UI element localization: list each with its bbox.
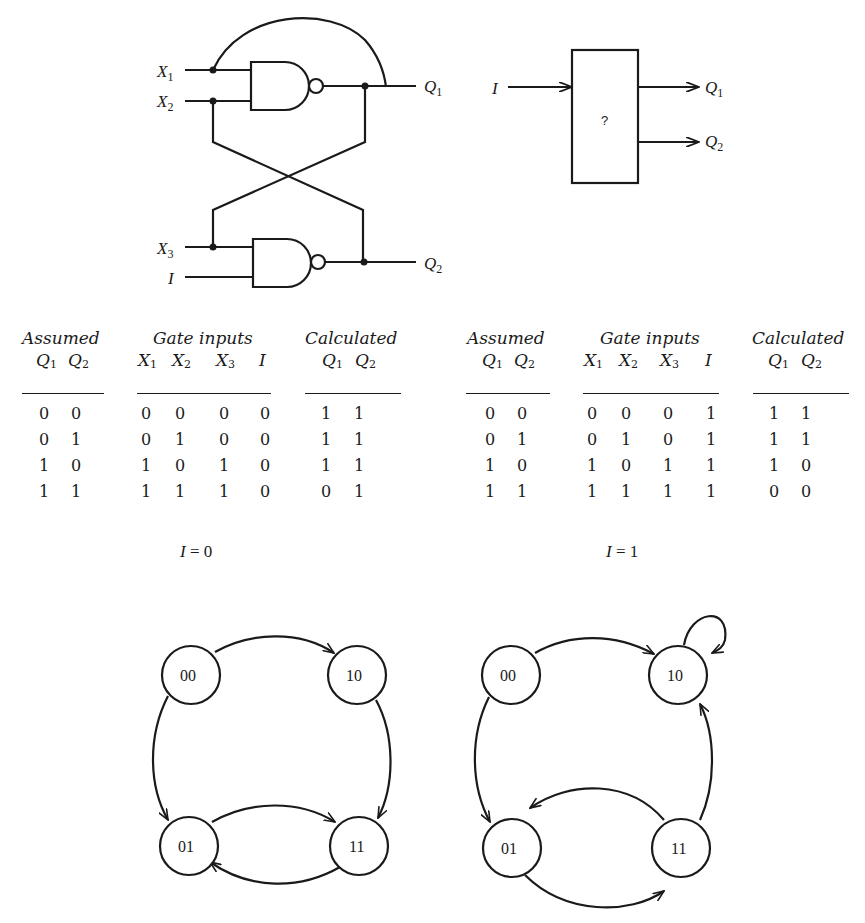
label-x3: X3	[156, 239, 173, 261]
cell-calculated: 1	[351, 404, 367, 423]
cell-calculated: 1	[318, 404, 334, 423]
cell-inputs: 0	[257, 456, 273, 475]
header-rule	[466, 393, 550, 394]
state-label-10: 10	[346, 667, 362, 684]
state-label-00: 00	[500, 667, 516, 684]
subheader-q1: Q1	[36, 350, 57, 371]
transition-01-to-11	[525, 875, 664, 907]
cell-assumed: 0	[68, 456, 84, 475]
cell-inputs: 0	[216, 404, 232, 423]
cell-calculated: 1	[351, 430, 367, 449]
cell-calculated: 1	[766, 430, 782, 449]
header-rule	[22, 393, 104, 394]
header-calculated: Calculated	[305, 328, 397, 348]
cell-assumed: 0	[482, 430, 498, 449]
cell-inputs: 1	[618, 482, 634, 501]
cell-inputs: 0	[618, 404, 634, 423]
cell-calculated: 1	[318, 456, 334, 475]
cell-inputs: 0	[618, 456, 634, 475]
cell-inputs: 0	[257, 404, 273, 423]
cell-calculated: 0	[798, 456, 814, 475]
header-gate-inputs: Gate inputs	[153, 328, 253, 348]
cell-calculated: 0	[798, 482, 814, 501]
cell-inputs: 1	[703, 430, 719, 449]
state-label-01: 01	[178, 838, 194, 855]
transition-00-to-10	[215, 636, 334, 653]
subheader-i: I	[259, 350, 266, 370]
transition-00-to-10	[535, 638, 654, 654]
cell-assumed: 1	[36, 482, 52, 501]
cell-assumed: 0	[482, 404, 498, 423]
subheader-calc-q1: Q1	[768, 350, 789, 371]
cell-calculated: 1	[318, 430, 334, 449]
cell-inputs: 1	[703, 456, 719, 475]
cell-inputs: 1	[216, 482, 232, 501]
cell-assumed: 1	[482, 456, 498, 475]
subheader-i: I	[705, 350, 712, 370]
cell-inputs: 0	[584, 430, 600, 449]
cell-calculated: 1	[798, 404, 814, 423]
cell-assumed: 1	[68, 430, 84, 449]
state-label-10: 10	[667, 667, 683, 684]
cell-assumed: 0	[36, 430, 52, 449]
subheader-x3: X3	[660, 350, 679, 371]
junction-dot	[361, 259, 368, 266]
transition-01-to-11	[212, 806, 335, 823]
cell-calculated: 1	[351, 456, 367, 475]
transition-10-self-loop	[684, 616, 725, 653]
cell-inputs: 1	[216, 456, 232, 475]
transition-11-to-10	[700, 704, 712, 820]
cell-calculated: 1	[766, 456, 782, 475]
label-q2: Q2	[424, 254, 442, 276]
header-rule	[583, 393, 719, 394]
header-assumed: Assumed	[467, 328, 545, 348]
cell-assumed: 0	[514, 456, 530, 475]
subheader-x2: X2	[172, 350, 191, 371]
black-box-q2-label: Q2	[705, 132, 723, 154]
transition-11-to-01	[530, 788, 664, 820]
black-box: ? I Q1 Q2	[491, 50, 723, 183]
transition-00-to-01	[153, 696, 168, 820]
cell-inputs: 0	[172, 456, 188, 475]
state-label-00: 00	[180, 667, 196, 684]
header-calculated: Calculated	[752, 328, 844, 348]
junction-dot	[210, 244, 217, 251]
transition-00-to-01	[475, 697, 490, 822]
nand-bubble-1	[309, 79, 323, 93]
cell-calculated: 1	[766, 404, 782, 423]
label-x2: X2	[156, 92, 173, 114]
cell-calculated: 0	[318, 482, 334, 501]
cell-inputs: 1	[138, 456, 154, 475]
nand-latch-circuit: X1 X2 X3 I Q1 Q2	[156, 18, 442, 288]
cell-inputs: 1	[584, 482, 600, 501]
cell-inputs: 1	[172, 430, 188, 449]
cell-inputs: 0	[172, 404, 188, 423]
cell-assumed: 0	[36, 404, 52, 423]
cell-inputs: 1	[138, 482, 154, 501]
cell-inputs: 0	[257, 482, 273, 501]
subheader-calc-q2: Q2	[801, 350, 822, 371]
cell-assumed: 1	[36, 456, 52, 475]
cell-calculated: 0	[766, 482, 782, 501]
nand-gate-2	[253, 239, 311, 287]
subheader-x1: X1	[138, 350, 157, 371]
diagram-canvas: X1 X2 X3 I Q1 Q2 ? I Q1 Q2 00 10 01 11	[0, 0, 865, 923]
cell-inputs: 0	[660, 404, 676, 423]
condition-caption: I = 1	[606, 542, 638, 562]
cell-inputs: 1	[618, 430, 634, 449]
cell-inputs: 0	[257, 430, 273, 449]
subheader-calc-q1: Q1	[322, 350, 343, 371]
subheader-q1: Q1	[482, 350, 503, 371]
nand-gate-1	[251, 62, 309, 110]
header-rule	[137, 393, 271, 394]
subheader-calc-q2: Q2	[355, 350, 376, 371]
cell-inputs: 1	[172, 482, 188, 501]
subheader-q2: Q2	[68, 350, 89, 371]
label-q1: Q1	[424, 77, 442, 99]
black-box-unknown-label: ?	[601, 113, 608, 128]
cell-assumed: 1	[482, 482, 498, 501]
cell-assumed: 1	[514, 430, 530, 449]
subheader-x3: X3	[216, 350, 235, 371]
cell-assumed: 0	[68, 404, 84, 423]
cell-calculated: 1	[351, 482, 367, 501]
